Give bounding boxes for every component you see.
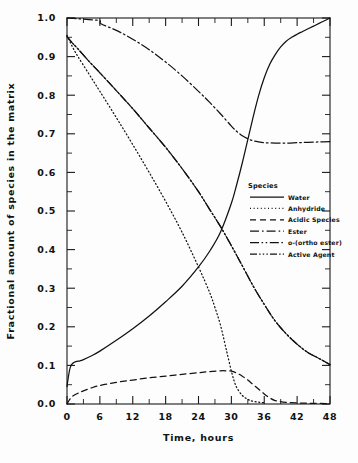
- y-tick-label: 0.2: [37, 321, 56, 332]
- x-tick-label: 30: [224, 411, 238, 422]
- y-tick-label: 0.5: [37, 205, 56, 216]
- y-tick-label: 0.9: [37, 51, 56, 62]
- x-tick-label: 24: [191, 411, 205, 422]
- x-tick-label: 42: [290, 411, 304, 422]
- legend-label-o-ortho-ester: o-(ortho ester): [288, 239, 342, 246]
- legend-label-acidic-species: Acidic Species: [288, 216, 340, 224]
- species-fraction-line-chart: 0.00.10.20.30.40.50.60.70.80.91.00612182…: [0, 0, 358, 463]
- x-tick-label: 0: [63, 411, 70, 422]
- legend-label-water: Water: [288, 194, 311, 201]
- legend-title: Species: [248, 182, 278, 190]
- legend-label-ester: Ester: [288, 228, 308, 235]
- legend-label-anhydride: Anhydride: [288, 205, 325, 213]
- y-tick-label: 0.6: [37, 167, 56, 178]
- y-tick-label: 0.7: [37, 128, 56, 139]
- x-tick-label: 6: [96, 411, 103, 422]
- x-tick-label: 18: [158, 411, 172, 422]
- y-tick-label: 0.0: [37, 398, 56, 409]
- y-tick-label: 0.1: [37, 360, 56, 371]
- series-line-water: [67, 18, 330, 387]
- series-line-anhydride: [67, 35, 264, 402]
- x-tick-label: 12: [126, 411, 140, 422]
- legend: SpeciesWaterAnhydrideAcidic SpeciesEster…: [248, 182, 342, 259]
- y-axis-title: Fractional amount of species in the matr…: [5, 83, 16, 340]
- y-tick-label: 1.0: [37, 12, 56, 23]
- y-tick-label: 0.8: [37, 90, 56, 101]
- y-tick-label: 0.4: [37, 244, 56, 255]
- x-tick-label: 48: [323, 411, 337, 422]
- x-axis-title: Time, hours: [163, 432, 234, 443]
- legend-label-active-agent: Active Agent: [288, 251, 335, 259]
- y-tick-label: 0.3: [37, 283, 56, 294]
- x-tick-label: 36: [257, 411, 271, 422]
- chart-figure: 0.00.10.20.30.40.50.60.70.80.91.00612182…: [0, 0, 358, 463]
